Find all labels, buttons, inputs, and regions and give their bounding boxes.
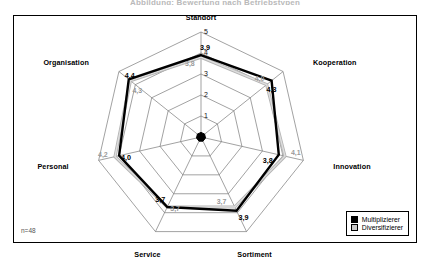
value-multiplizierer-sortiment: 3,9 (239, 213, 249, 222)
radar-chart-frame: 12345StandortKooperationInnovationSortim… (13, 15, 417, 243)
legend-item-diversifizierer: Diversifizierer (351, 224, 403, 231)
value-diversifizierer-innovation: 4,1 (291, 149, 301, 156)
value-diversifizierer-standort: 3,8 (185, 60, 195, 67)
axis-label-personal: Personal (14, 162, 69, 171)
axis-tick-3: 3 (204, 70, 208, 77)
axis-tick-5: 5 (204, 28, 208, 35)
value-diversifizierer-service: 3,7 (170, 205, 180, 212)
value-multiplizierer-innovation: 3,8 (263, 156, 273, 165)
axis-tick-2: 2 (204, 91, 208, 98)
value-diversifizierer-kooperation: 4,0 (255, 75, 265, 82)
axis-label-sortiment: Sortiment (215, 250, 295, 259)
axis-label-standort: Standort (161, 13, 241, 22)
radar-chart-svg (14, 16, 416, 242)
legend-label-multiplizierer: Multiplizierer (362, 216, 400, 223)
page-title: Abbildung: Bewertung nach Betriebstypen (0, 0, 430, 5)
legend-item-multiplizierer: Multiplizierer (351, 216, 403, 223)
legend-label-diversifizierer: Diversifizierer (362, 224, 403, 231)
axis-label-organisation: Organisation (14, 58, 89, 67)
sample-size-note: n=48 (21, 227, 36, 234)
legend-swatch-black-icon (351, 216, 358, 223)
value-multiplizierer-standort: 3,9 (200, 43, 210, 52)
axis-label-kooperation: Kooperation (313, 58, 356, 67)
value-multiplizierer-service: 3,7 (155, 195, 165, 204)
value-multiplizierer-kooperation: 4,3 (267, 85, 277, 94)
value-multiplizierer-personal: 4,0 (121, 153, 131, 162)
value-multiplizierer-organisation: 4,4 (125, 71, 135, 80)
legend-swatch-gray-icon (351, 224, 358, 231)
value-diversifizierer-sortiment: 3,7 (217, 198, 227, 205)
value-diversifizierer-personal: 4,2 (98, 151, 108, 158)
axis-label-innovation: Innovation (333, 162, 370, 171)
value-diversifizierer-organisation: 4,3 (132, 87, 142, 94)
axis-label-service: Service (107, 250, 187, 259)
axis-tick-1: 1 (204, 112, 208, 119)
chart-legend: Multiplizierer Diversifizierer (346, 211, 409, 236)
